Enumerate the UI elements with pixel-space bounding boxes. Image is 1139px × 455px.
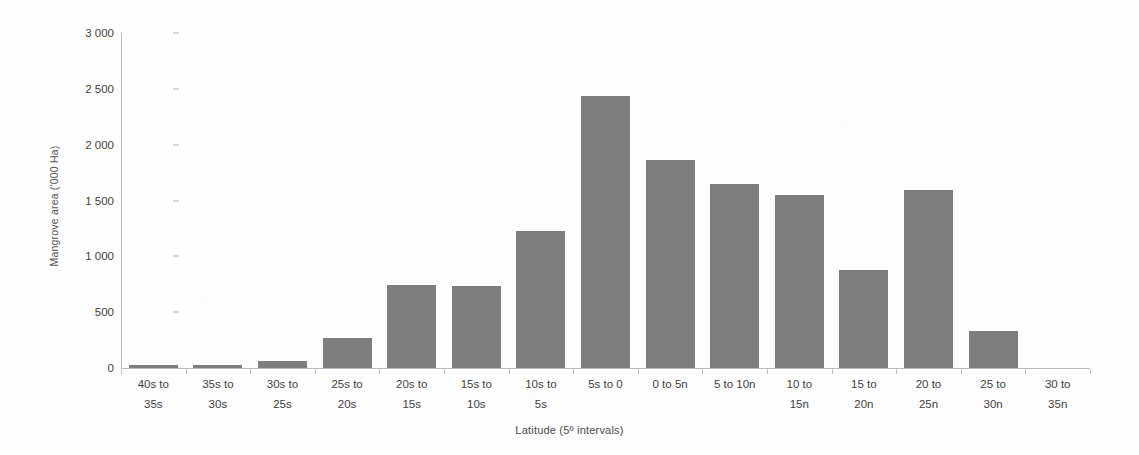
bar[interactable]	[775, 195, 824, 368]
x-axis-tick-label: 15s to10s	[444, 374, 509, 414]
y-axis-tick-label: 1 000	[58, 250, 114, 262]
y-axis-tick-labels: 05001 0001 5002 0002 5003 000	[58, 24, 114, 376]
y-axis-tick-label: 0	[58, 362, 114, 374]
x-axis-tick-label: 15 to20n	[832, 374, 897, 414]
bar[interactable]	[969, 331, 1018, 368]
bar[interactable]	[904, 190, 953, 368]
y-axis-tick-label: 1 500	[58, 195, 114, 207]
x-axis-tick-label: 25 to30n	[961, 374, 1026, 414]
bar-slot	[1025, 33, 1090, 368]
bar-slot	[767, 33, 832, 368]
x-axis-tick-labels: 40s to35s35s to30s30s to25s25s to20s20s …	[121, 374, 1090, 428]
bar-slot	[961, 33, 1026, 368]
x-axis-tick-label: 30s to25s	[250, 374, 315, 414]
x-axis-tick-label: 10s to5s	[509, 374, 574, 414]
bar[interactable]	[581, 96, 630, 368]
x-axis-tick-label: 25s to20s	[315, 374, 380, 414]
mangrove-area-by-latitude-chart: Mangrove area ('000 Ha) 05001 0001 5002 …	[0, 0, 1139, 455]
x-axis-tick-label: 5 to 10n	[702, 374, 767, 394]
bar[interactable]	[839, 270, 888, 368]
plot-area	[121, 33, 1090, 368]
y-axis-tick-label: 500	[58, 306, 114, 318]
bar-slot	[896, 33, 961, 368]
x-axis-tick-label: 20s to15s	[379, 374, 444, 414]
y-axis-tick-label: 2 000	[58, 139, 114, 151]
bar[interactable]	[387, 285, 436, 368]
bar[interactable]	[516, 231, 565, 368]
x-axis-tick-label: 35s to30s	[186, 374, 251, 414]
bar[interactable]	[710, 184, 759, 368]
bar[interactable]	[258, 361, 307, 368]
bar[interactable]	[323, 338, 372, 368]
bar-slot	[379, 33, 444, 368]
bar-slot	[638, 33, 703, 368]
bar-slot	[315, 33, 380, 368]
bar-slot	[832, 33, 897, 368]
x-axis-tick-label: 20 to25n	[896, 374, 961, 414]
x-axis-tick-label: 5s to 0	[573, 374, 638, 394]
x-axis-tick-label: 40s to35s	[121, 374, 186, 414]
bar-slot	[444, 33, 509, 368]
x-axis-title: Latitude (5º intervals)	[0, 424, 1139, 436]
bar-slot	[702, 33, 767, 368]
bar[interactable]	[646, 160, 695, 368]
x-axis-tick-label: 0 to 5n	[638, 374, 703, 394]
x-axis-tick-label: 10 to15n	[767, 374, 832, 414]
bar-slot	[121, 33, 186, 368]
x-axis-tick-mark	[1090, 369, 1091, 374]
y-axis-tick-label: 2 500	[58, 83, 114, 95]
bar[interactable]	[452, 286, 501, 368]
bar-slot	[573, 33, 638, 368]
y-axis-tick-label: 3 000	[58, 27, 114, 39]
bar-slot	[186, 33, 251, 368]
bar-slot	[509, 33, 574, 368]
x-axis-tick-label: 30 to35n	[1025, 374, 1090, 414]
bar-slot	[250, 33, 315, 368]
